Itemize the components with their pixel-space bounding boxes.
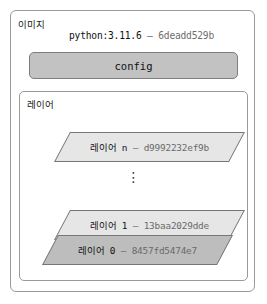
layer-item-separator: – [133,142,138,153]
image-tag-separator: – [147,30,153,41]
layer-item-separator: – [121,245,126,256]
layer-item-name: 레이어 n [90,142,127,153]
image-tag-name: python:3.11.6 [69,30,142,41]
layer-item-text: 레이어 1 – 13baa2029dde [90,218,209,232]
layer-item-id: d9992232ef9b [144,142,209,153]
layer-item-text: 레이어 n – d9992232ef9b [90,140,209,154]
layer-item-separator: – [133,220,138,231]
image-tag: python:3.11.6 – 6deadd529b [11,30,254,41]
layer-item-id: 13baa2029dde [144,220,209,231]
layer-container: 레이어 레이어 n – d9992232ef9b ⋮ 레이어 1 – 13baa… [19,91,248,281]
image-container: 이미지 python:3.11.6 – 6deadd529b config 레이… [10,10,255,292]
config-block[interactable]: config [29,52,238,79]
image-tag-id: 6deadd529b [158,30,214,41]
layer-container-label: 레이어 [27,97,53,111]
image-container-label: 이미지 [18,17,44,31]
layer-ellipsis: ⋮ [20,170,247,184]
layer-item-name: 레이어 0 [78,245,115,256]
layer-item-n[interactable]: 레이어 n – d9992232ef9b [62,132,237,162]
layer-item-name: 레이어 1 [90,220,127,231]
config-label: config [115,60,153,72]
layer-item-id: 8457fd5474e7 [132,245,197,256]
layer-item-0[interactable]: 레이어 0 – 8457fd5474e7 [50,235,225,265]
layer-item-text: 레이어 0 – 8457fd5474e7 [78,243,197,257]
